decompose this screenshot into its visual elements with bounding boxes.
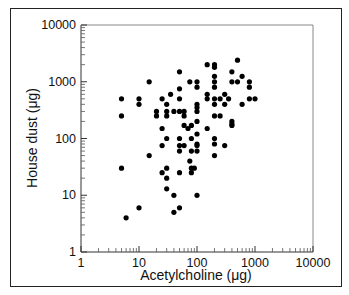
- data-point: [212, 65, 217, 70]
- data-point: [182, 109, 187, 114]
- data-point: [182, 113, 187, 118]
- data-point: [222, 92, 227, 97]
- data-point: [205, 62, 210, 67]
- data-point: [177, 69, 182, 74]
- data-point: [160, 126, 165, 131]
- data-point: [212, 153, 217, 158]
- data-point: [205, 92, 210, 97]
- data-point: [194, 109, 199, 114]
- data-point: [212, 113, 217, 118]
- x-tick-label: 1: [78, 256, 85, 270]
- data-point: [177, 149, 182, 154]
- data-point: [189, 123, 194, 128]
- data-point: [164, 136, 169, 141]
- data-point: [218, 96, 223, 101]
- data-point: [194, 131, 199, 136]
- data-point: [154, 109, 159, 114]
- data-point: [194, 149, 199, 154]
- data-point: [177, 109, 182, 114]
- y-tick-label: 10: [62, 188, 76, 202]
- data-point: [229, 123, 234, 128]
- data-point: [136, 205, 141, 210]
- data-point: [177, 136, 182, 141]
- data-point: [192, 166, 197, 171]
- data-point: [164, 109, 169, 114]
- data-point: [177, 96, 182, 101]
- data-point: [189, 136, 194, 141]
- data-point: [212, 96, 217, 101]
- data-point: [164, 102, 169, 107]
- data-point: [212, 74, 217, 79]
- data-point: [205, 96, 210, 101]
- data-point: [247, 85, 252, 90]
- y-tick-label: 10000: [41, 18, 76, 32]
- data-point: [194, 79, 199, 84]
- data-point: [205, 126, 210, 131]
- data-point: [240, 74, 245, 79]
- data-point: [182, 143, 187, 148]
- data-point: [136, 96, 141, 101]
- data-point: [177, 170, 182, 175]
- data-point: [160, 170, 165, 175]
- data-point: [187, 159, 192, 164]
- y-tick-label: 1000: [48, 75, 76, 89]
- data-point: [194, 193, 199, 198]
- data-point: [240, 102, 245, 107]
- data-point: [136, 102, 141, 107]
- y-axis-title: House dust (μg): [24, 88, 40, 188]
- data-point: [164, 186, 169, 191]
- data-point: [212, 141, 217, 146]
- y-tick-label: 1: [69, 245, 76, 259]
- data-point: [164, 176, 169, 181]
- data-point: [235, 58, 240, 63]
- data-point: [124, 215, 129, 220]
- plot-axes: [81, 25, 313, 252]
- data-point: [247, 96, 252, 101]
- data-point: [177, 205, 182, 210]
- data-point: [154, 113, 159, 118]
- data-point: [119, 166, 124, 171]
- axis-ticks: [81, 25, 313, 252]
- x-axis-title: Acetylcholine (μg): [140, 267, 252, 283]
- data-point: [194, 85, 199, 90]
- data-point: [212, 136, 217, 141]
- data-point: [189, 149, 194, 154]
- data-point: [164, 166, 169, 171]
- data-point: [119, 96, 124, 101]
- data-point: [160, 143, 165, 148]
- y-tick-labels: 110100100010000: [41, 18, 76, 259]
- data-point: [218, 113, 223, 118]
- data-point: [119, 113, 124, 118]
- data-point: [164, 113, 169, 118]
- data-point: [212, 102, 217, 107]
- data-point: [160, 96, 165, 101]
- data-point: [171, 193, 176, 198]
- scatter-plot: 110100100010000 110100100010000 Acetylch…: [0, 0, 349, 295]
- data-point: [171, 210, 176, 215]
- data-point: [177, 86, 182, 91]
- data-point: [252, 96, 257, 101]
- data-point: [194, 143, 199, 148]
- data-point: [168, 92, 173, 97]
- data-point: [177, 143, 182, 148]
- data-point: [189, 170, 194, 175]
- data-points: [119, 58, 258, 221]
- x-tick-label: 10000: [296, 256, 331, 270]
- data-point: [212, 79, 217, 84]
- data-point: [171, 109, 176, 114]
- data-point: [222, 143, 227, 148]
- data-point: [212, 85, 217, 90]
- data-point: [147, 153, 152, 158]
- data-point: [229, 69, 234, 74]
- data-point: [247, 79, 252, 84]
- data-point: [187, 79, 192, 84]
- data-point: [226, 96, 231, 101]
- data-point: [194, 119, 199, 124]
- data-point: [147, 79, 152, 84]
- data-point: [235, 79, 240, 84]
- data-point: [222, 102, 227, 107]
- y-tick-label: 100: [55, 132, 76, 146]
- data-point: [229, 79, 234, 84]
